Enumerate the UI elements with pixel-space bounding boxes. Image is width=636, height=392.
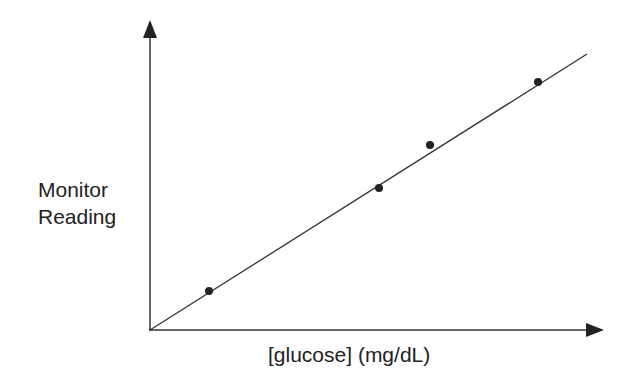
data-point (426, 141, 434, 149)
data-point (375, 184, 383, 192)
trendline (150, 54, 587, 330)
y-axis-label: Monitor Reading (38, 176, 116, 230)
y-axis-label-line-2: Reading (38, 203, 116, 230)
data-point (205, 287, 213, 295)
data-points (205, 78, 542, 295)
x-axis-label: [glucose] (mg/dL) (268, 343, 430, 367)
x-axis-arrow-icon (586, 323, 604, 337)
y-axis-arrow-icon (143, 20, 157, 38)
data-point (534, 78, 542, 86)
y-axis-label-line-1: Monitor (38, 176, 116, 203)
